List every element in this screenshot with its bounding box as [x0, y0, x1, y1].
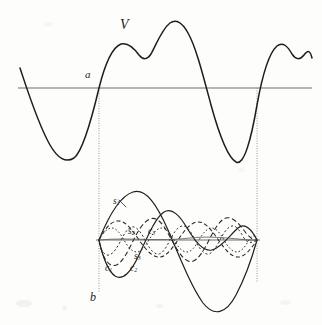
label-c1: c1	[105, 264, 112, 274]
curve-c2	[99, 218, 257, 266]
label-c3-sub: 3	[152, 230, 155, 236]
label-V: V	[120, 18, 129, 32]
label-c3: c3	[148, 227, 155, 237]
figure-canvas: .ink { fill:none; stroke:#1d1d1d; stroke…	[0, 0, 322, 325]
label-c1-sub: 1	[109, 267, 112, 273]
curve-s1	[99, 191, 257, 311]
label-c2-sub: 2	[134, 267, 137, 273]
label-point-a: a	[85, 69, 91, 80]
label-s2: s2	[128, 227, 135, 237]
label-point-b: b	[90, 291, 96, 303]
label-s3: s3	[134, 252, 141, 262]
label-s1-sub: 1	[117, 200, 120, 206]
leader-s1	[119, 200, 126, 207]
curve-V	[20, 21, 312, 162]
label-c2: c2	[130, 264, 137, 274]
label-s1: s1	[113, 197, 120, 207]
label-s2-sub: 2	[132, 230, 135, 236]
curve-c1	[99, 211, 257, 278]
fourier-harmonics-figure: .ink { fill:none; stroke:#1d1d1d; stroke…	[0, 0, 322, 325]
label-s3-sub: 3	[138, 255, 141, 261]
